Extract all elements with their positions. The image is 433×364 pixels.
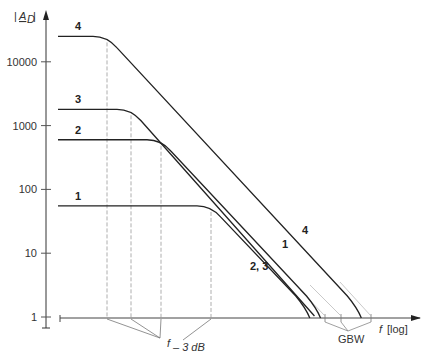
cutoff-label-subscript: – 3 dB [172, 341, 205, 353]
x-axis-label-f: f [379, 323, 383, 335]
cutoff-pointer [131, 319, 160, 338]
y-axis-label: | [14, 10, 17, 22]
rolloff-label: 2, 3 [250, 260, 268, 272]
tangent-4 [340, 282, 371, 316]
y-tick-label: 100 [19, 183, 37, 195]
x-axis-label-log: [log] [387, 323, 408, 335]
y-tick-label: 10000 [6, 56, 37, 68]
y-axis-label-symbol: A [18, 10, 26, 22]
cutoff-label: f [167, 337, 171, 349]
curve-label-3: 3 [75, 93, 81, 105]
cutoff-pointer [160, 319, 161, 338]
y-tick-label: 1 [31, 311, 37, 323]
curve-4 [58, 36, 361, 318]
y-tick-label: 10 [25, 247, 37, 259]
curve-label-2: 2 [75, 124, 81, 136]
rolloff-label: 4 [302, 224, 309, 236]
bode-chart: 110100100010000 |AD|f[log]4321f– 3 dBGBW… [0, 0, 433, 364]
curve-label-1: 1 [75, 190, 81, 202]
y-axis-label-bar: | [33, 10, 36, 22]
cutoff-pointer [107, 319, 160, 338]
tangent-1 [310, 285, 341, 316]
gbw-pointer [325, 322, 371, 331]
y-tick-label: 1000 [13, 120, 37, 132]
curve-2 [58, 140, 321, 318]
y-axis-arrow [43, 10, 49, 20]
gbw-label: GBW [338, 333, 365, 345]
cutoff-pointer [183, 319, 211, 340]
rolloff-label: 1 [282, 238, 288, 250]
x-axis-arrow [411, 315, 421, 321]
curve-label-4: 4 [75, 20, 82, 32]
curve-1 [58, 206, 310, 318]
